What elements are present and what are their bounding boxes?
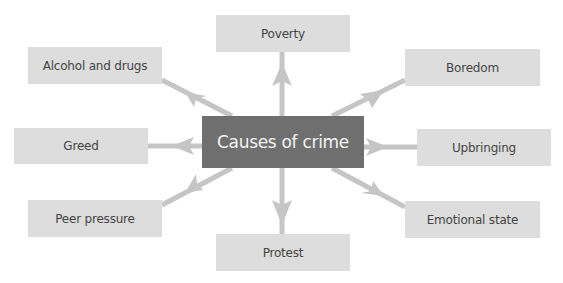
node-poverty: Poverty <box>216 15 350 52</box>
node-label: Greed <box>63 139 98 153</box>
node-emotional-state: Emotional state <box>405 201 540 238</box>
node-label: Alcohol and drugs <box>43 59 148 73</box>
node-boredom: Boredom <box>405 49 540 86</box>
central-topic-label: Causes of crime <box>217 132 349 152</box>
node-protest: Protest <box>216 234 350 271</box>
central-topic: Causes of crime <box>202 116 364 168</box>
node-label: Upbringing <box>452 141 516 155</box>
node-label: Poverty <box>261 27 305 41</box>
node-label: Boredom <box>446 61 499 75</box>
node-alcohol-and-drugs: Alcohol and drugs <box>28 47 162 84</box>
node-upbringing: Upbringing <box>417 129 551 166</box>
node-label: Emotional state <box>427 213 519 227</box>
node-label: Protest <box>263 246 304 260</box>
node-greed: Greed <box>14 128 148 164</box>
node-label: Peer pressure <box>55 212 135 226</box>
node-peer-pressure: Peer pressure <box>28 200 162 237</box>
